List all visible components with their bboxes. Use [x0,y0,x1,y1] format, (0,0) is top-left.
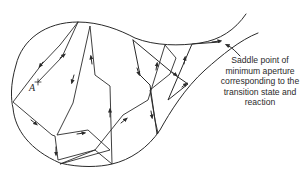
point-a-label: A [29,82,35,93]
trajectory-c [133,40,220,100]
saddle-point-annotation: Saddle point of minimum aperture corresp… [212,55,305,108]
annotation-line: minimum aperture [212,66,305,77]
boundary-upper-curve [78,14,246,45]
annotation-line: reaction [212,97,305,108]
annotation-line: corresponding to the [212,76,305,87]
annotation-line: Saddle point of [212,55,305,66]
annotation-line: transition state and [212,87,305,98]
